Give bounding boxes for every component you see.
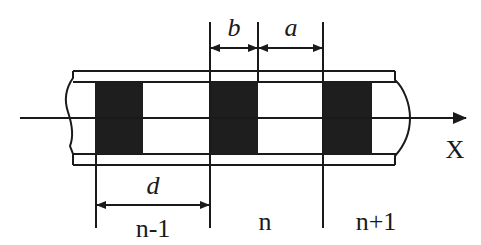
axis-x-label: X (446, 135, 465, 164)
periodic-structure-diagram: b a d X n-1 n n+1 (0, 0, 481, 245)
dim-b-label: b (228, 13, 241, 42)
cell-label-n+1: n+1 (356, 207, 397, 236)
cell-label-n: n (259, 207, 272, 236)
dim-d-label: d (147, 171, 161, 200)
dim-a-label: a (285, 13, 298, 42)
cell-label-n-1: n-1 (136, 214, 171, 243)
